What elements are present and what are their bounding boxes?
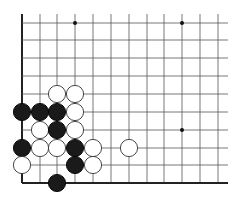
black-stone[interactable] — [66, 139, 83, 156]
white-stone[interactable] — [84, 156, 101, 173]
white-stone[interactable] — [66, 121, 83, 138]
white-stone[interactable] — [48, 139, 65, 156]
white-stone[interactable] — [66, 103, 83, 120]
star-point-icon — [73, 21, 77, 25]
go-board[interactable] — [0, 0, 242, 198]
black-stone[interactable] — [13, 103, 30, 120]
black-stone[interactable] — [48, 121, 65, 138]
black-stone[interactable] — [48, 174, 65, 191]
black-stone[interactable] — [13, 139, 30, 156]
white-stone[interactable] — [120, 139, 137, 156]
white-stone[interactable] — [13, 156, 30, 173]
black-stone[interactable] — [48, 103, 65, 120]
star-points — [73, 21, 184, 132]
white-stone[interactable] — [66, 85, 83, 102]
black-stone[interactable] — [31, 103, 48, 120]
white-stone[interactable] — [31, 139, 48, 156]
white-stone[interactable] — [31, 121, 48, 138]
black-stone[interactable] — [66, 156, 83, 173]
star-point-icon — [180, 21, 184, 25]
star-point-icon — [180, 128, 184, 132]
white-stone[interactable] — [48, 85, 65, 102]
white-stone[interactable] — [84, 139, 101, 156]
stones-layer — [13, 85, 137, 191]
